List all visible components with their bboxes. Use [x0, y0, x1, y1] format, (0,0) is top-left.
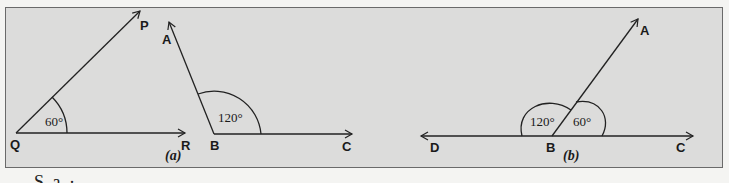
label-Q: Q	[10, 137, 20, 152]
geometry-diagram	[0, 0, 729, 183]
angle-label-120-a: 120°	[218, 110, 243, 126]
angle-label-60-b: 60°	[573, 114, 591, 130]
label-D-b: D	[430, 140, 439, 155]
caption-a: (a)	[165, 148, 181, 164]
ray-QP	[16, 11, 140, 133]
cut-off-text: S a ·	[34, 172, 77, 183]
angle-label-60-a: 60°	[45, 114, 63, 130]
label-C-b: C	[676, 140, 685, 155]
label-C-a: C	[342, 139, 351, 154]
label-R: R	[181, 138, 190, 153]
label-B-a: B	[210, 138, 219, 153]
ray-BA	[169, 22, 214, 134]
label-A-b: A	[640, 23, 649, 38]
label-A-a: A	[162, 32, 171, 47]
caption-b: (b)	[563, 148, 579, 164]
label-P: P	[140, 18, 149, 33]
ray-BA-b	[552, 19, 638, 136]
label-B-b: B	[546, 140, 555, 155]
angle-label-120-b: 120°	[530, 114, 555, 130]
